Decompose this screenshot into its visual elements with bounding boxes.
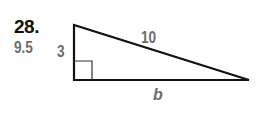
horizontal-leg-label: b [153, 86, 163, 104]
right-angle-marker [74, 61, 92, 80]
hypotenuse-label: 10 [141, 29, 156, 47]
triangle-shape [74, 25, 249, 80]
right-triangle-diagram [0, 0, 259, 128]
vertical-leg-label: 3 [57, 43, 65, 61]
